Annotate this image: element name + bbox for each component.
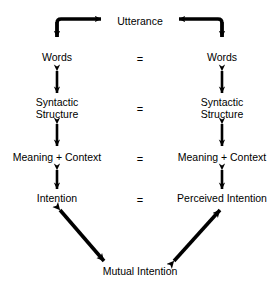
bottom-right-diagonal-arrow [174,210,220,261]
top-right-elbow-arrow [179,19,222,37]
node-left-meaning-context: Meaning + Context [13,152,101,164]
node-left-words: Words [42,52,72,64]
node-right-perceived-intention: Perceived Intention [177,193,267,205]
equals-sign-syntactic-structure: = [137,104,143,115]
equals-sign-intention: = [137,195,143,206]
node-left-intention: Intention [37,193,77,205]
equals-sign-meaning-context: = [137,154,143,165]
equals-sign-words: = [137,54,143,65]
node-left-syntactic-structure: Syntactic Structure [36,97,79,120]
top-left-elbow-arrow [57,19,101,37]
node-utterance: Utterance [117,16,163,28]
diagram-canvas: Utterance Words Syntactic Structure Mean… [0,0,280,289]
diagram-connectors [0,0,280,289]
node-right-words: Words [207,52,237,64]
bottom-left-diagonal-arrow [60,210,104,261]
node-mutual-intention: Mutual Intention [103,266,178,278]
node-right-meaning-context: Meaning + Context [178,152,266,164]
node-right-syntactic-structure: Syntactic Structure [201,97,244,120]
